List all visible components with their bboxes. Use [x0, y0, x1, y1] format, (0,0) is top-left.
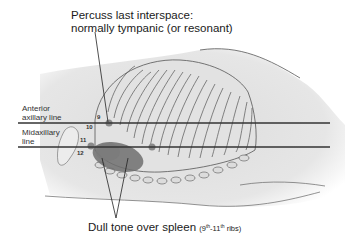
- anterior-axillary-label: Anterior axillary line: [22, 104, 62, 122]
- rib-number-11: 11: [80, 137, 86, 143]
- spleen-dullness-label: Dull tone over spleen (9th-11th ribs): [88, 221, 241, 234]
- spleen-percussion-diagram: Percuss last interspace: normally tympan…: [0, 0, 345, 241]
- rib-range: (9th-11th ribs): [199, 224, 241, 233]
- rib-number-9: 9: [97, 114, 100, 120]
- midaxillary-label: Midaxillary line: [22, 128, 60, 146]
- rib-number-12: 12: [77, 150, 84, 156]
- percussion-label: Percuss last interspace: normally tympan…: [71, 9, 233, 35]
- percussion-label-line1: Percuss last interspace:: [71, 9, 233, 22]
- rib-number-10: 10: [86, 124, 93, 130]
- percussion-label-line2: normally tympanic (or resonant): [71, 22, 233, 35]
